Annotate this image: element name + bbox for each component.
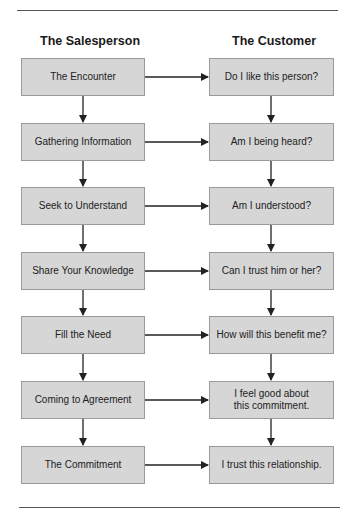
- response-label: I trust this relationship.: [221, 459, 321, 471]
- step-label: Coming to Agreement: [35, 394, 132, 406]
- response-label: Am I being heard?: [231, 136, 313, 148]
- salesperson-step-gathering-information: Gathering Information: [21, 123, 145, 161]
- response-label: Can I trust him or her?: [222, 265, 321, 277]
- step-label: Gathering Information: [35, 136, 132, 148]
- step-label: Fill the Need: [55, 329, 111, 341]
- step-label: The Commitment: [45, 459, 122, 471]
- response-label: Do I like this person?: [225, 71, 318, 83]
- customer-response-being-heard: Am I being heard?: [209, 123, 334, 161]
- salesperson-column-header: The Salesperson: [40, 34, 140, 48]
- salesperson-step-coming-to-agreement: Coming to Agreement: [21, 381, 145, 419]
- salesperson-step-commitment: The Commitment: [21, 446, 145, 484]
- customer-response-trust-relationship: I trust this relationship.: [209, 446, 334, 484]
- response-label: I feel good about this commitment.: [234, 388, 310, 412]
- customer-response-feel-good: I feel good about this commitment.: [209, 381, 334, 419]
- customer-response-like-person: Do I like this person?: [209, 58, 334, 96]
- salesperson-step-seek-to-understand: Seek to Understand: [21, 187, 145, 225]
- step-label: Seek to Understand: [39, 200, 127, 212]
- salesperson-step-share-knowledge: Share Your Knowledge: [21, 252, 145, 290]
- salesperson-step-fill-need: Fill the Need: [21, 316, 145, 354]
- customer-response-understood: Am I understood?: [209, 187, 334, 225]
- response-label: Am I understood?: [232, 200, 311, 212]
- top-rule: [17, 10, 338, 11]
- customer-column-header: The Customer: [232, 34, 316, 48]
- step-label: The Encounter: [50, 71, 116, 83]
- step-label: Share Your Knowledge: [32, 265, 134, 277]
- customer-response-benefit: How will this benefit me?: [209, 316, 334, 354]
- customer-response-trust: Can I trust him or her?: [209, 252, 334, 290]
- response-label: How will this benefit me?: [216, 329, 326, 341]
- bottom-rule: [19, 507, 340, 508]
- salesperson-step-encounter: The Encounter: [21, 58, 145, 96]
